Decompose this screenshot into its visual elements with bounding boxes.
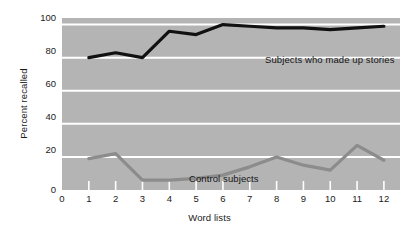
y-tick-label: 40 <box>30 112 56 122</box>
x-tick-label: 11 <box>347 193 367 204</box>
series-line-made-up-stories <box>89 25 384 58</box>
series-annotation-made-up-stories: Subjects who made up stories <box>265 54 395 65</box>
plot-area: Subjects who made up stories Control sub… <box>62 18 400 190</box>
y-tick-label: 60 <box>30 79 56 89</box>
plot-svg <box>62 18 400 190</box>
y-tick-label: 100 <box>30 13 56 23</box>
y-tick-label: 80 <box>30 46 56 56</box>
y-tick-label: 20 <box>30 145 56 155</box>
x-tick-label: 12 <box>374 193 394 204</box>
x-tick-label: 1 <box>79 193 99 204</box>
x-tick-label: 8 <box>267 193 287 204</box>
x-tick-label: 3 <box>132 193 152 204</box>
x-tick-label: 5 <box>186 193 206 204</box>
x-tick-label: 9 <box>293 193 313 204</box>
x-tick-label: 4 <box>159 193 179 204</box>
x-tick-label: 0 <box>52 193 72 204</box>
gridlines <box>62 25 400 157</box>
chart-container: Percent recalled 100 80 60 40 20 0 Subje… <box>0 0 419 233</box>
x-tick-label: 2 <box>106 193 126 204</box>
x-tick-label: 7 <box>240 193 260 204</box>
series-annotation-control-subjects: Control subjects <box>189 173 259 184</box>
x-axis-title: Word lists <box>0 212 419 223</box>
x-tick-label: 10 <box>320 193 340 204</box>
x-tick-label: 6 <box>213 193 233 204</box>
